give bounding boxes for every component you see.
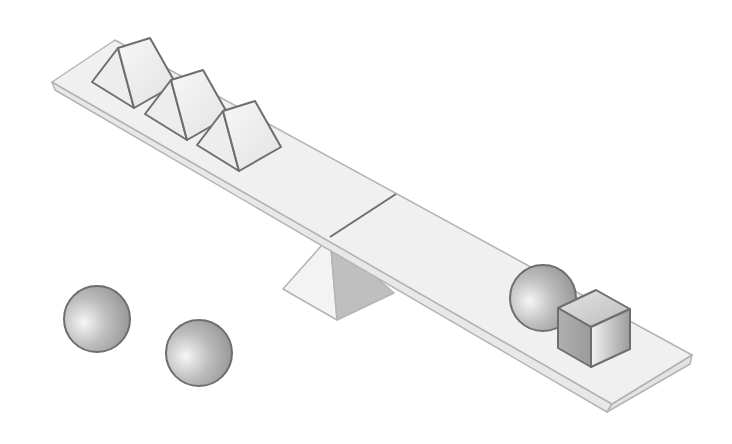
- plank-front-edge: [52, 82, 612, 412]
- loose-sphere-1: [64, 286, 130, 352]
- balance-scene: [0, 0, 732, 444]
- loose-sphere-2: [166, 320, 232, 386]
